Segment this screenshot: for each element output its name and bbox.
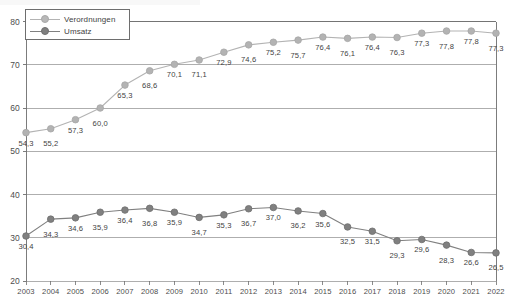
point-label-verordnungen-2003: 54,3 <box>13 139 39 148</box>
point-label-verordnungen-2006: 60,0 <box>87 119 113 128</box>
legend-label-verordnungen: Verordnungen <box>64 15 115 24</box>
y-tick-60: 60 <box>2 103 20 113</box>
point-label-umsatz-2021: 26,6 <box>458 258 484 267</box>
point-label-verordnungen-2009: 70,1 <box>161 70 187 79</box>
y-tick-40: 40 <box>2 190 20 200</box>
x-tick-2022: 2022 <box>481 287 507 296</box>
y-tick-50: 50 <box>2 146 20 156</box>
y-tick-80: 80 <box>2 17 20 27</box>
point-label-verordnungen-2004: 55,2 <box>38 139 64 148</box>
point-label-umsatz-2020: 28,3 <box>434 256 460 265</box>
point-label-verordnungen-2013: 75,2 <box>260 48 286 57</box>
point-label-umsatz-2015: 35,6 <box>310 220 336 229</box>
y-tick-20: 20 <box>2 276 20 286</box>
point-label-umsatz-2005: 34,6 <box>62 224 88 233</box>
legend-item-verordnungen: Verordnungen <box>30 13 115 25</box>
point-label-umsatz-2019: 29,6 <box>409 245 435 254</box>
point-label-verordnungen-2007: 65,3 <box>112 91 138 100</box>
point-label-umsatz-2014: 36,2 <box>285 221 311 230</box>
point-label-umsatz-2007: 36,4 <box>112 216 138 225</box>
point-label-verordnungen-2022: 77,3 <box>483 44 507 53</box>
point-label-umsatz-2013: 37,0 <box>260 213 286 222</box>
point-label-umsatz-2017: 31,5 <box>359 237 385 246</box>
point-label-verordnungen-2005: 57,3 <box>62 126 88 135</box>
point-label-verordnungen-2021: 77,8 <box>458 37 484 46</box>
point-label-umsatz-2011: 35,3 <box>211 221 237 230</box>
point-label-verordnungen-2011: 72,9 <box>211 58 237 67</box>
legend-item-umsatz: Umsatz <box>30 25 92 37</box>
legend-marker-icon-umsatz <box>30 26 60 36</box>
point-label-verordnungen-2012: 74,6 <box>236 55 262 64</box>
point-label-umsatz-2010: 34,7 <box>186 228 212 237</box>
chart-container: 80706050403020 2003200420052006200720082… <box>0 0 507 305</box>
legend-marker-icon-verordnungen <box>30 14 60 24</box>
point-label-umsatz-2004: 34,3 <box>38 230 64 239</box>
chart-legend: Verordnungen Umsatz <box>25 9 130 40</box>
point-label-verordnungen-2008: 68,6 <box>137 81 163 90</box>
point-label-verordnungen-2018: 76,3 <box>384 48 410 57</box>
point-label-verordnungen-2010: 71,1 <box>186 70 212 79</box>
point-label-umsatz-2009: 35,9 <box>161 218 187 227</box>
point-label-verordnungen-2020: 77,8 <box>434 42 460 51</box>
point-label-umsatz-2012: 36,7 <box>236 219 262 228</box>
y-tick-70: 70 <box>2 60 20 70</box>
point-label-umsatz-2018: 29,3 <box>384 251 410 260</box>
point-label-verordnungen-2017: 76,4 <box>359 43 385 52</box>
point-label-verordnungen-2014: 75,7 <box>285 51 311 60</box>
point-label-verordnungen-2016: 76,1 <box>335 49 361 58</box>
legend-label-umsatz: Umsatz <box>64 27 92 36</box>
point-label-verordnungen-2019: 77,3 <box>409 39 435 48</box>
point-label-verordnungen-2015: 76,4 <box>310 43 336 52</box>
point-label-umsatz-2006: 35,9 <box>87 223 113 232</box>
point-label-umsatz-2003: 30,4 <box>13 242 39 251</box>
point-label-umsatz-2016: 32,5 <box>335 237 361 246</box>
point-label-umsatz-2008: 36,8 <box>137 219 163 228</box>
point-label-umsatz-2022: 26,5 <box>483 263 507 272</box>
